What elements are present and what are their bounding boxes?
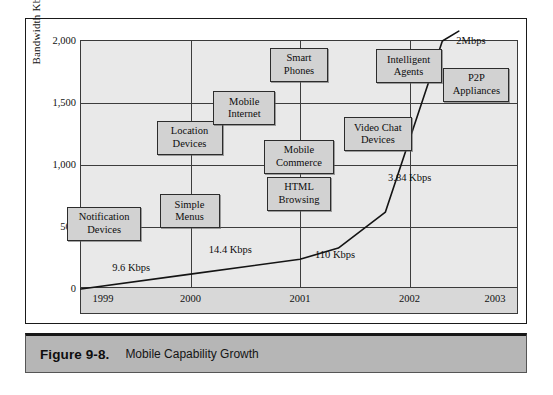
node-label-line: Appliances xyxy=(453,85,500,98)
node-simple-menus: SimpleMenus xyxy=(160,194,220,228)
x-tick-label: 2003 xyxy=(485,293,506,304)
node-label-line: Agents xyxy=(394,66,424,79)
curve-annotation: 3.84 Kbps xyxy=(388,172,431,183)
node-html-browsing: HTMLBrowsing xyxy=(267,177,331,211)
node-smart-phones: SmartPhones xyxy=(270,48,328,82)
node-label-line: Location xyxy=(171,125,208,138)
node-label-line: Simple xyxy=(175,199,205,212)
node-p2p-appliances: P2PAppliances xyxy=(443,68,509,102)
node-label-line: Notification xyxy=(79,211,130,224)
curve-annotation: 2Mbps xyxy=(456,35,485,46)
node-label-line: Intelligent xyxy=(387,54,430,67)
node-label-line: P2P xyxy=(468,72,485,85)
curve-annotation: 14.4 Kbps xyxy=(209,244,252,255)
figure-number: Figure 9-8. xyxy=(40,347,109,362)
y-tick-label: 0 xyxy=(38,283,76,294)
curve-annotation: 9.6 Kbps xyxy=(112,262,150,273)
node-label-line: Devices xyxy=(87,224,121,237)
node-label-line: HTML xyxy=(284,181,314,194)
node-label-line: Devices xyxy=(173,138,207,151)
node-video-chat-devices: Video ChatDevices xyxy=(344,117,412,151)
figure-page: Bandwidth Kbps 05001,0001,5002,000 19992… xyxy=(0,0,553,395)
node-label-line: Video Chat xyxy=(354,122,402,135)
figure-caption-bar: Figure 9-8. Mobile Capability Growth xyxy=(25,333,527,373)
node-label-line: Phones xyxy=(284,65,314,78)
node-mobile-commerce: MobileCommerce xyxy=(264,140,334,174)
node-label-line: Mobile xyxy=(229,96,259,109)
node-notification-devices: NotificationDevices xyxy=(67,207,141,241)
node-label-line: Mobile xyxy=(284,144,314,157)
node-mobile-internet: MobileInternet xyxy=(213,91,275,125)
curve-annotation: 110 Kbps xyxy=(315,249,355,260)
y-tick-label: 1,500 xyxy=(38,97,76,108)
node-intelligent-agents: IntelligentAgents xyxy=(376,49,442,83)
y-tick-label: 2,000 xyxy=(38,35,76,46)
node-label-line: Browsing xyxy=(279,194,320,207)
x-tick-label: 2000 xyxy=(180,293,201,304)
node-label-line: Devices xyxy=(361,134,395,147)
node-location-devices: LocationDevices xyxy=(157,121,223,155)
x-tick-label: 2002 xyxy=(399,293,420,304)
x-axis-strip: 19992000200120022003 xyxy=(80,288,518,314)
figure-title: Mobile Capability Growth xyxy=(125,347,258,361)
x-tick-label: 1999 xyxy=(93,293,114,304)
x-tick-label: 2001 xyxy=(290,293,311,304)
y-tick-label: 1,000 xyxy=(38,159,76,170)
node-label-line: Menus xyxy=(175,211,204,224)
node-label-line: Internet xyxy=(228,108,261,121)
node-label-line: Commerce xyxy=(276,157,322,170)
node-label-line: Smart xyxy=(286,52,311,65)
